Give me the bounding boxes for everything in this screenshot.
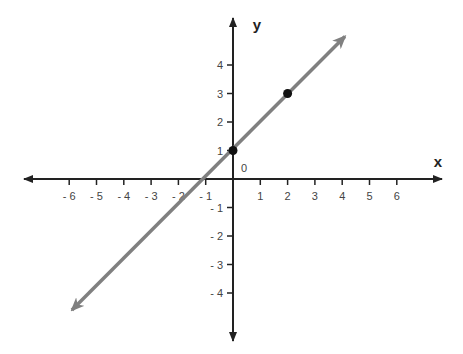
x-tick-label: - 4 [117,190,130,202]
origin-label: 0 [241,162,247,174]
x-tick-label: - 6 [63,190,76,202]
line-series [72,37,345,311]
y-tick-label: - 3 [210,259,223,271]
x-tick-label: 6 [394,190,400,202]
x-tick-label: - 5 [90,190,103,202]
x-axis-label: x [434,153,443,170]
y-tick-label: - 4 [210,287,223,299]
y-tick-label: 2 [217,116,223,128]
x-tick-label: - 3 [145,190,158,202]
data-point [229,146,238,155]
coordinate-plane: - 6- 5- 4- 3- 2- 11234564321- 1- 2- 3- 4… [0,0,463,354]
y-tick-label: - 2 [210,230,223,242]
y-axis-label: y [253,16,262,33]
x-tick-label: 1 [257,190,263,202]
y-tick-label: 4 [217,59,223,71]
x-tick-label: - 1 [199,190,212,202]
data-point [283,89,292,98]
x-tick-label: 3 [312,190,318,202]
x-tick-label: 2 [285,190,291,202]
x-tick-label: 5 [366,190,372,202]
y-tick-label: 1 [217,145,223,157]
y-tick-label: - 1 [210,202,223,214]
x-tick-label: 4 [339,190,345,202]
y-tick-label: 3 [217,88,223,100]
